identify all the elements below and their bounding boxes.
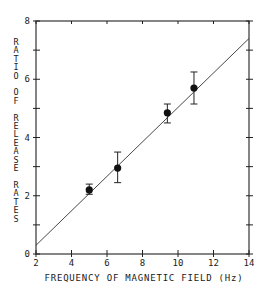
plot-frame [36,21,249,254]
x-tick-label: 10 [173,258,184,268]
plot-border [36,21,249,254]
marker-dot [114,164,121,171]
y-tick-label: 4 [25,133,30,143]
x-tick-label: 14 [244,258,255,268]
data-points [86,72,198,194]
regression-line [36,38,249,245]
data-point [190,72,197,104]
chart: 2468101214 02468 FREQUENCY OF MAGNETIC F… [0,0,268,295]
y-tick-label: 0 [25,249,30,259]
marker-dot [86,186,93,193]
data-point [86,184,93,194]
y-axis-title: R A T I O O F R E L E A S E R A T E S [10,38,22,223]
x-tick-label: 2 [33,258,38,268]
fit-line [36,38,249,245]
marker-dot [190,84,197,91]
data-point [114,152,121,183]
x-tick-label: 6 [104,258,109,268]
x-axis-title: FREQUENCY OF MAGNETIC FIELD (Hz) [45,273,244,283]
x-axis-ticks: 2468101214 [33,21,254,268]
marker-dot [164,109,171,116]
y-tick-label: 2 [25,191,30,201]
x-tick-label: 8 [140,258,145,268]
x-tick-label: 12 [208,258,219,268]
y-tick-label: 8 [25,16,30,26]
x-tick-label: 4 [69,258,74,268]
y-tick-label: 6 [25,74,30,84]
